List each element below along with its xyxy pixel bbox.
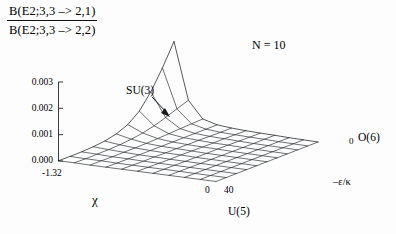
surface-mesh-plot — [0, 0, 396, 234]
axis-lines — [59, 82, 64, 161]
figure-canvas: B(E2;3,3 –> 2,1) B(E2;3,3 –> 2,2) N = 10… — [0, 0, 396, 234]
mesh-wireframe — [59, 42, 319, 182]
su3-pointer-arrow — [152, 97, 170, 117]
